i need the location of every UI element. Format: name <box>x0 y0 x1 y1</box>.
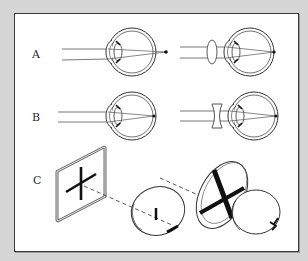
astigmatism-illustration <box>56 146 280 243</box>
eye-a-uncorrected <box>62 28 168 76</box>
cross-target-card <box>56 146 106 222</box>
eye-b-corrected <box>180 92 278 140</box>
eye-b-uncorrected <box>58 92 156 140</box>
concave-lens <box>212 104 222 128</box>
focal-point <box>164 50 168 54</box>
convex-lens <box>207 40 217 64</box>
eye-refraction-diagram <box>0 0 308 261</box>
eye-a-corrected <box>180 28 276 76</box>
